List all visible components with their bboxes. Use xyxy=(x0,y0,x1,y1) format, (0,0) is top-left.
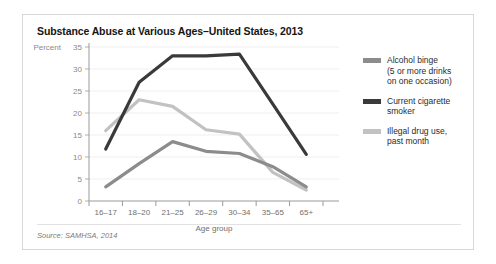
series-line xyxy=(106,142,307,187)
y-axis-tick-label: 5 xyxy=(78,175,83,184)
x-axis-category-label: 16–17 xyxy=(95,208,118,217)
x-axis-title: Age group xyxy=(196,224,233,233)
y-axis-tick-label: 30 xyxy=(73,65,82,74)
legend-label-line-3: on one occasion) xyxy=(387,76,452,86)
legend-label-line-2: smoker xyxy=(387,106,415,116)
x-axis-category-label: 35–65 xyxy=(262,208,285,217)
x-axis-category-label: 26–29 xyxy=(195,208,218,217)
x-axis-category-label: 18–20 xyxy=(128,208,151,217)
chart-legend: Alcohol binge (5 or more drinks on one o… xyxy=(363,55,471,156)
y-axis-title: Percent xyxy=(33,43,61,52)
source-divider xyxy=(37,224,461,225)
legend-label-line-2: (5 or more drinks xyxy=(387,66,451,76)
legend-label-alcohol-binge: Alcohol binge (5 or more drinks on one o… xyxy=(387,55,452,87)
y-axis-tick-label: 0 xyxy=(78,197,83,206)
legend-label-line-1: Illegal drug use, xyxy=(387,126,447,136)
legend-label-illegal-drug-use: Illegal drug use, past month xyxy=(387,126,447,147)
x-axis-category-label: 21–25 xyxy=(161,208,184,217)
y-axis-tick-label: 15 xyxy=(73,131,82,140)
legend-label-line-1: Current cigarette xyxy=(387,96,450,106)
y-axis-tick-label: 25 xyxy=(73,87,82,96)
x-axis-category-label: 30–34 xyxy=(228,208,251,217)
legend-swatch-cigarette-smoker xyxy=(363,99,381,104)
legend-label-line-2: past month xyxy=(387,136,429,146)
y-axis-tick-label: 35 xyxy=(73,43,82,52)
legend-swatch-illegal-drug-use xyxy=(363,129,381,134)
source-note: Source: SAMHSA, 2014 xyxy=(37,231,117,240)
x-axis-category-label: 65+ xyxy=(299,208,313,217)
y-axis-tick-label: 20 xyxy=(73,109,82,118)
legend-swatch-alcohol-binge xyxy=(363,58,381,63)
y-axis-tick-label: 10 xyxy=(73,153,82,162)
legend-item-illegal-drug-use: Illegal drug use, past month xyxy=(363,126,471,147)
legend-item-cigarette-smoker: Current cigarette smoker xyxy=(363,96,471,117)
legend-label-cigarette-smoker: Current cigarette smoker xyxy=(387,96,450,117)
chart-panel: Substance Abuse at Various Ages–United S… xyxy=(22,14,474,250)
legend-label-line-1: Alcohol binge xyxy=(387,55,438,65)
legend-item-alcohol-binge: Alcohol binge (5 or more drinks on one o… xyxy=(363,55,471,87)
